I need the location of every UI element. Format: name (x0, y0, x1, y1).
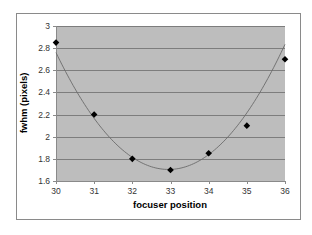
x-tick-label: 36 (280, 186, 290, 196)
y-tick-label: 2.6 (38, 65, 50, 75)
y-tick-label: 3 (45, 21, 50, 31)
y-tick-label: 2.8 (38, 43, 50, 53)
x-tick-label: 33 (166, 186, 176, 196)
y-axis-title: fwhm (pixels) (18, 73, 29, 134)
chart: 1.61.822.22.42.62.83 30313233343536 fwhm… (0, 0, 312, 235)
x-tick-label: 34 (204, 186, 214, 196)
y-tick-label: 1.6 (38, 176, 50, 186)
plot-area (56, 26, 285, 181)
x-tick-label: 31 (89, 186, 99, 196)
x-tick-label: 32 (128, 186, 138, 196)
x-tick-label: 35 (242, 186, 252, 196)
y-tick-label: 2.4 (38, 87, 50, 97)
y-tick-label: 2.2 (38, 110, 50, 120)
y-tick-label: 1.8 (38, 154, 50, 164)
x-tick-label: 30 (51, 186, 61, 196)
x-axis-title: focuser position (133, 199, 207, 210)
y-tick-label: 2 (45, 132, 50, 142)
